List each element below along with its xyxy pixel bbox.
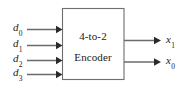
input-label-d1: d1 (13, 38, 22, 52)
output-wire-x1 (124, 37, 161, 44)
input-wire-d1 (27, 42, 63, 49)
input-label-d0-base: d (13, 21, 19, 33)
input-label-d0-subscript: 0 (19, 29, 23, 38)
input-label-d2-base: d (13, 52, 19, 64)
input-wire-d3 (27, 71, 63, 78)
arrowhead-icon (154, 37, 161, 44)
output-label-x1: x1 (166, 34, 175, 48)
arrowhead-icon (56, 42, 63, 49)
input-label-d3-base: d (13, 66, 19, 78)
output-wire-x0 (124, 58, 161, 65)
diagram-canvas (0, 0, 186, 86)
block-label-line-1: 4-to-2 (62, 31, 124, 42)
input-label-d1-base: d (13, 37, 19, 49)
block-label-line-2: Encoder (62, 52, 124, 63)
input-wire-d0 (27, 26, 63, 33)
arrowhead-icon (56, 71, 63, 78)
encoder-block-diagram: 4-to-2 Encoder d0 d1 d2 d3 x1 x0 (0, 0, 186, 86)
input-wire-d2 (27, 57, 63, 64)
input-label-d0: d0 (13, 22, 22, 36)
arrowhead-icon (154, 58, 161, 65)
output-label-x1-subscript: 1 (171, 41, 175, 50)
input-label-d3: d3 (13, 67, 22, 81)
encoder-block-rect (63, 9, 125, 80)
output-label-x0-subscript: 0 (171, 62, 175, 71)
input-label-d3-subscript: 3 (19, 74, 23, 83)
output-label-x0: x0 (166, 55, 175, 69)
input-label-d2: d2 (13, 53, 22, 67)
